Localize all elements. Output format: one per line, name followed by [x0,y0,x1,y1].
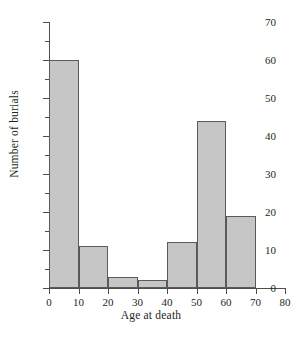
y-axis-tick-label: 20 [265,207,276,218]
y-axis-tick-label: 30 [265,169,276,180]
y-axis-tick-label: 40 [265,131,276,142]
histogram-bar [167,242,197,288]
x-axis-tick-label: 10 [73,297,84,308]
x-axis-tick-label: 60 [221,297,232,308]
x-axis-tick [197,288,198,294]
y-axis-tick-major [43,60,49,61]
x-axis-tick [49,288,50,294]
y-axis-tick-label: 60 [265,55,276,66]
y-axis-tick-label: 10 [265,245,276,256]
x-axis-tick [285,288,286,294]
y-axis-title: Number of burials [8,74,20,194]
x-axis-tick-label: 30 [132,297,143,308]
histogram-bar [138,280,168,288]
x-axis-tick-label: 20 [103,297,114,308]
y-axis-tick-minor [45,155,49,156]
histogram-bar [49,60,79,288]
y-axis-tick-major [43,174,49,175]
plot-area: 010203040506070 01020304050607080 [49,22,285,288]
x-axis-tick [79,288,80,294]
y-axis-tick-minor [45,79,49,80]
x-axis-tick [226,288,227,294]
y-axis-tick-minor [45,41,49,42]
x-axis-tick [108,288,109,294]
y-axis-tick-minor [45,117,49,118]
histogram-figure: 010203040506070 01020304050607080 Number… [0,0,302,337]
histogram-bar [197,121,227,288]
histogram-bar [108,277,138,288]
y-axis-tick-label: 50 [265,93,276,104]
histogram-bar [79,246,109,288]
x-axis-tick-label: 40 [162,297,173,308]
y-axis-tick-major [43,250,49,251]
x-axis-title: Age at death [0,309,302,321]
x-axis-tick [138,288,139,294]
y-axis-tick-label: 70 [265,17,276,28]
y-axis-tick-minor [45,193,49,194]
y-axis-tick-major [43,136,49,137]
y-axis-tick-major [43,212,49,213]
x-axis-tick [167,288,168,294]
y-axis-tick-minor [45,269,49,270]
y-axis-tick-minor [45,231,49,232]
y-axis-tick-label: 0 [271,283,277,294]
x-axis-tick [256,288,257,294]
x-axis-tick-label: 0 [46,297,52,308]
x-axis-tick-label: 70 [250,297,261,308]
x-axis-tick-label: 50 [191,297,202,308]
x-axis-tick-label: 80 [280,297,291,308]
histogram-bar [226,216,256,288]
y-axis-tick-major [43,98,49,99]
y-axis-tick-major [43,22,49,23]
